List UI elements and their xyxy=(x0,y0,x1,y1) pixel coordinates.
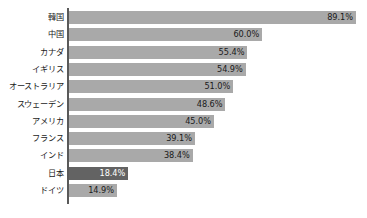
bar-value-label: 38.4% xyxy=(164,149,190,162)
bar-row: イギリス54.9% xyxy=(0,63,367,76)
category-label: アメリカ xyxy=(32,115,64,128)
bar-row: 中国60.0% xyxy=(0,28,367,41)
bar-row: 韓国89.1% xyxy=(0,11,367,24)
bar-chart: 韓国89.1%中国60.0%カナダ55.4%イギリス54.9%オーストラリア51… xyxy=(0,0,367,218)
bar xyxy=(69,11,356,24)
bar-row: ドイツ14.9% xyxy=(0,184,367,197)
category-label: イギリス xyxy=(32,63,64,76)
bar-track: 48.6% xyxy=(69,98,225,111)
bar-row: オーストラリア51.0% xyxy=(0,80,367,93)
bar-track: 54.9% xyxy=(69,63,246,76)
bar-row: スウェーデン48.6% xyxy=(0,98,367,111)
category-label: オーストラリア xyxy=(9,80,64,93)
category-label: インド xyxy=(40,149,64,162)
category-label: フランス xyxy=(32,132,64,145)
bar-value-label: 48.6% xyxy=(197,98,223,111)
bar-row: フランス39.1% xyxy=(0,132,367,145)
bar-value-label: 14.9% xyxy=(88,184,114,197)
category-label: 日本 xyxy=(48,167,64,180)
category-label: スウェーデン xyxy=(17,98,64,111)
category-label: 中国 xyxy=(48,28,64,41)
plot-area: 韓国89.1%中国60.0%カナダ55.4%イギリス54.9%オーストラリア51… xyxy=(0,0,367,218)
bar-track: 55.4% xyxy=(69,46,247,59)
bar-track: 14.9% xyxy=(69,184,117,197)
bar-row: アメリカ45.0% xyxy=(0,115,367,128)
category-label: 韓国 xyxy=(48,11,64,24)
bar-value-label: 54.9% xyxy=(217,63,243,76)
bar-value-label: 60.0% xyxy=(233,28,259,41)
bar-track: 18.4% xyxy=(69,167,128,180)
bar-track: 38.4% xyxy=(69,149,193,162)
category-label: ドイツ xyxy=(40,184,64,197)
bar-track: 51.0% xyxy=(69,80,233,93)
bar-track: 60.0% xyxy=(69,28,262,41)
bar-value-label: 51.0% xyxy=(204,80,230,93)
bar-value-label: 18.4% xyxy=(99,167,125,180)
bar-value-label: 45.0% xyxy=(185,115,211,128)
bar-track: 39.1% xyxy=(69,132,195,145)
bar-value-label: 55.4% xyxy=(219,46,245,59)
bar-row: インド38.4% xyxy=(0,149,367,162)
bar-track: 89.1% xyxy=(69,11,356,24)
bar-row: 日本18.4% xyxy=(0,167,367,180)
category-label: カナダ xyxy=(40,46,64,59)
bar-row: カナダ55.4% xyxy=(0,46,367,59)
bar-value-label: 89.1% xyxy=(327,11,353,24)
bar-track: 45.0% xyxy=(69,115,214,128)
bar-value-label: 39.1% xyxy=(166,132,192,145)
